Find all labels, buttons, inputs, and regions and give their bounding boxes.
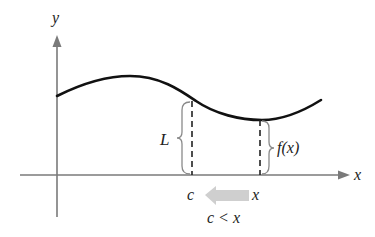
limit-brace-icon [177, 102, 190, 174]
y-axis-arrow-icon [53, 35, 62, 47]
y-axis-label: y [50, 9, 60, 27]
x-axis [20, 171, 350, 180]
x-axis-arrow-icon [338, 171, 350, 180]
point-x-label: x [251, 186, 259, 203]
function-value-label: f(x) [277, 139, 299, 157]
function-curve [57, 76, 321, 120]
limit-label: L [159, 130, 169, 149]
diagram-canvas: y x L f(x) c x c < x [0, 0, 375, 237]
x-axis-label: x [353, 166, 361, 183]
y-axis [53, 35, 62, 217]
value-brace-icon [262, 121, 274, 174]
point-c-label: c [187, 186, 194, 203]
condition-label: c < x [207, 209, 240, 226]
approach-arrow-icon [205, 186, 249, 205]
